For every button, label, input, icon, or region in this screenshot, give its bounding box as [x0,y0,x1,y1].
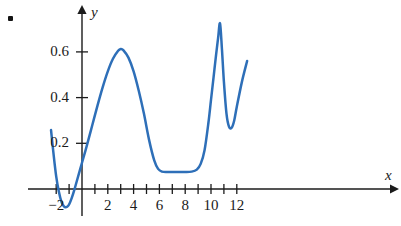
x-tick-label: 6 [145,198,173,213]
axes-group [28,5,399,216]
y-axis-arrowhead [77,5,86,14]
x-tick-label: 2 [94,198,122,213]
plot-area [0,0,401,226]
y-tick-label: 0.6 [17,44,69,59]
y-axis-label: y [91,5,98,20]
x-tick-label: 12 [223,198,251,213]
chart-figure: −2246810120.20.40.6 x y [0,0,401,226]
data-curve [51,23,247,207]
x-tick-label: 8 [171,198,199,213]
x-axis-arrowhead [390,184,399,193]
x-tick-label: 4 [120,198,148,213]
x-tick-label: 10 [197,198,225,213]
x-axis-label: x [385,168,392,183]
y-tick-label: 0.4 [17,90,69,105]
y-tick-label: 0.2 [17,135,69,150]
x-tick-label: −2 [42,198,70,213]
